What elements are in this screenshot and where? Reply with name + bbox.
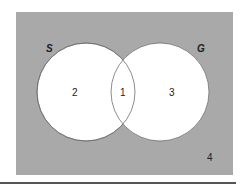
region-intersection-label: 1 <box>120 87 126 98</box>
bottom-divider <box>0 182 236 184</box>
venn-diagram: S G 2 1 3 4 <box>0 0 248 187</box>
region-s-only-label: 2 <box>72 87 78 98</box>
set-g-circle <box>111 43 209 141</box>
set-s-label: S <box>46 43 53 54</box>
region-g-only-label: 3 <box>169 87 175 98</box>
set-g-label: G <box>197 43 205 54</box>
region-neither-label: 4 <box>207 152 213 163</box>
